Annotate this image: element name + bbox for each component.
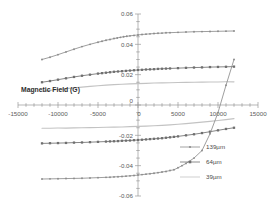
data-point-marker	[181, 165, 183, 167]
data-point-marker	[81, 75, 83, 77]
x-tick-label-zero: 0	[137, 110, 141, 117]
data-point-marker	[97, 72, 99, 74]
data-point-marker	[153, 172, 155, 174]
data-point-marker	[233, 127, 235, 129]
data-point-marker	[217, 30, 219, 32]
data-point-marker	[121, 140, 123, 142]
data-point-marker	[141, 174, 143, 176]
data-point-marker	[117, 176, 119, 178]
data-point-marker	[41, 178, 43, 180]
data-point-marker	[233, 30, 235, 32]
data-point-marker	[169, 170, 171, 172]
data-point-marker	[73, 76, 75, 78]
data-point-marker	[89, 74, 91, 76]
data-point-marker	[117, 70, 119, 72]
x-tick-label: -5000	[90, 110, 106, 117]
data-point-marker	[185, 31, 187, 33]
data-point-marker	[193, 133, 195, 135]
data-point-marker	[101, 40, 103, 42]
legend-swatch-marker	[189, 146, 191, 148]
data-point-marker	[65, 51, 67, 53]
data-point-marker	[133, 139, 135, 141]
data-point-marker	[149, 33, 151, 35]
hysteresis-chart: -15000-10000-5000500010000150000 -0.06-0…	[0, 0, 273, 216]
data-point-marker	[73, 141, 75, 143]
data-point-marker	[137, 174, 139, 176]
data-point-marker	[57, 79, 59, 81]
data-point-marker	[149, 68, 151, 70]
data-point-marker	[233, 59, 235, 61]
data-point-marker	[145, 33, 147, 35]
data-point-marker	[217, 66, 219, 68]
data-point-marker	[153, 68, 155, 70]
data-point-marker	[173, 169, 175, 171]
y-tick-label: -0.02	[119, 132, 134, 139]
y-tick-label: -0.06	[119, 192, 134, 199]
data-point-marker	[153, 33, 155, 35]
data-point-marker	[233, 65, 235, 67]
data-point-marker	[129, 175, 131, 177]
data-point-marker	[125, 139, 127, 141]
data-point-marker	[149, 173, 151, 175]
data-point-marker	[133, 34, 135, 36]
x-tick-label: 5000	[171, 110, 185, 117]
data-point-marker	[165, 170, 167, 172]
data-point-marker	[97, 141, 99, 143]
data-point-marker	[57, 178, 59, 180]
data-point-marker	[141, 139, 143, 141]
x-tick-label: 15000	[249, 110, 267, 117]
data-point-marker	[225, 128, 227, 130]
data-point-marker	[137, 139, 139, 141]
axis-title: Magnetic Field (G)	[21, 86, 80, 94]
data-point-marker	[157, 32, 159, 34]
data-point-marker	[113, 38, 115, 40]
data-point-marker	[105, 39, 107, 41]
data-point-marker	[177, 67, 179, 69]
data-point-marker	[129, 35, 131, 37]
data-point-marker	[109, 39, 111, 41]
data-point-marker	[89, 177, 91, 179]
data-point-marker	[165, 137, 167, 139]
data-point-marker	[145, 173, 147, 175]
data-point-marker	[177, 135, 179, 137]
data-point-marker	[41, 59, 43, 61]
y-tick-label: 0.04	[121, 41, 134, 48]
data-point-marker	[129, 69, 131, 71]
legend-label: 64µm	[206, 158, 222, 165]
data-point-marker	[193, 31, 195, 33]
data-point-marker	[137, 69, 139, 71]
x-tick-label: -15000	[8, 110, 28, 117]
data-point-marker	[225, 84, 227, 86]
data-point-marker	[157, 137, 159, 139]
data-point-marker	[165, 32, 167, 34]
data-point-marker	[49, 142, 51, 144]
data-point-marker	[157, 172, 159, 174]
data-point-marker	[209, 30, 211, 32]
data-point-marker	[125, 70, 127, 72]
data-point-marker	[145, 138, 147, 140]
chart-legend: 139µm64µm39µm	[180, 143, 225, 180]
data-point-marker	[113, 176, 115, 178]
data-point-marker	[169, 136, 171, 138]
x-axis-tick-labels: -15000-10000-5000500010000150000	[8, 110, 267, 117]
data-point-marker	[41, 142, 43, 144]
data-point-marker	[169, 67, 171, 69]
data-point-marker	[129, 139, 131, 141]
data-point-marker	[193, 157, 195, 159]
data-point-marker	[113, 71, 115, 73]
data-point-marker	[121, 70, 123, 72]
data-point-marker	[185, 134, 187, 136]
data-point-marker	[173, 136, 175, 138]
data-point-marker	[105, 72, 107, 74]
data-point-marker	[217, 112, 219, 114]
chart-container: -15000-10000-5000500010000150000 -0.06-0…	[0, 0, 273, 216]
data-point-marker	[73, 48, 75, 50]
data-point-marker	[119, 36, 121, 38]
data-point-marker	[109, 71, 111, 73]
data-point-marker	[225, 66, 227, 68]
data-point-marker	[97, 41, 99, 43]
data-point-marker	[89, 141, 91, 143]
data-point-marker	[165, 67, 167, 69]
data-point-marker	[133, 175, 135, 177]
data-point-marker	[65, 77, 67, 79]
